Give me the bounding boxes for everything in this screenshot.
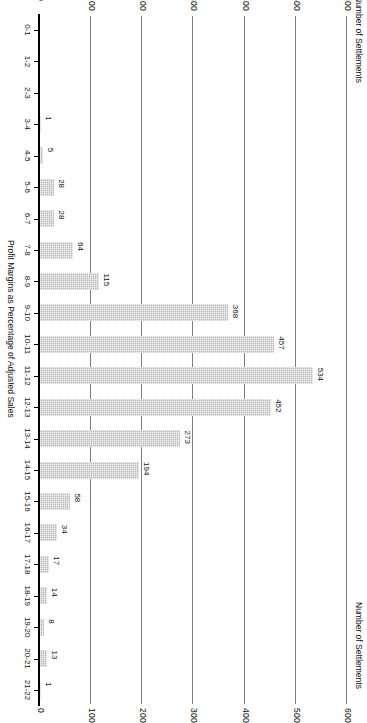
ytick-label-left-200: 200 <box>138 0 148 11</box>
ytick-label-right-100: 100 <box>87 708 97 723</box>
ytick-label-right-300: 300 <box>190 708 200 723</box>
ytick-label-left-300: 300 <box>190 0 200 11</box>
bar-14-15 <box>40 462 139 479</box>
bar-16-17 <box>40 524 57 541</box>
category-label-6-7: 6-7 <box>23 206 32 232</box>
bar-11-12 <box>40 367 313 384</box>
xtick-4-5 <box>34 156 38 157</box>
bar-5-6 <box>40 179 54 196</box>
category-label-17-18: 17-18 <box>23 551 32 577</box>
gridline-500 <box>295 16 296 704</box>
bar-value-4-5: 5 <box>46 148 55 152</box>
ytick-label-right-200: 200 <box>138 708 148 723</box>
bar-6-7 <box>40 210 54 227</box>
xtick-7-8 <box>34 250 38 251</box>
xtick-0-1 <box>34 30 38 31</box>
category-label-1-2: 1-2 <box>23 48 32 74</box>
category-label-16-17: 16-17 <box>23 520 32 546</box>
bar-value-7-8: 64 <box>76 242 85 251</box>
category-label-8-9: 8-9 <box>23 268 32 294</box>
category-label-12-13: 12-13 <box>23 394 32 420</box>
xtick-6-7 <box>34 219 38 220</box>
xtick-10-11 <box>34 344 38 345</box>
bar-4-5 <box>40 147 43 164</box>
xtick-13-14 <box>34 439 38 440</box>
bar-value-9-10: 368 <box>231 305 240 318</box>
category-label-19-20: 19-20 <box>23 614 32 640</box>
bar-value-14-15: 194 <box>142 462 151 475</box>
bar-18-19 <box>40 587 47 604</box>
category-label-2-3: 2-3 <box>23 80 32 106</box>
ytick-label-right-600: 600 <box>343 708 353 723</box>
bar-3-4 <box>40 116 41 133</box>
bar-value-21-22: 1 <box>44 682 53 686</box>
xtick-18-19 <box>34 596 38 597</box>
bar-value-11-12: 534 <box>316 368 325 381</box>
category-label-14-15: 14-15 <box>23 457 32 483</box>
gridline-200 <box>141 16 142 704</box>
category-label-15-16: 15-16 <box>23 488 32 514</box>
bar-value-8-9: 115 <box>102 273 111 286</box>
category-label-7-8: 7-8 <box>23 237 32 263</box>
bar-value-13-14: 273 <box>183 431 192 444</box>
category-label-13-14: 13-14 <box>23 426 32 452</box>
gridline-600 <box>346 16 347 704</box>
bar-7-8 <box>40 242 73 259</box>
xtick-11-12 <box>34 376 38 377</box>
bar-value-20-21: 13 <box>50 651 59 660</box>
ytick-label-left-100: 100 <box>87 0 97 11</box>
gridline-400 <box>244 16 245 704</box>
xtick-17-18 <box>34 564 38 565</box>
bar-9-10 <box>40 304 228 321</box>
y-axis-title-top: Number of Settlements <box>354 602 364 689</box>
bar-value-16-17: 34 <box>60 525 69 534</box>
xtick-14-15 <box>34 470 38 471</box>
ytick-label-left-400: 400 <box>241 0 251 11</box>
bar-13-14 <box>40 430 180 447</box>
bar-21-22 <box>40 682 41 699</box>
bar-value-18-19: 14 <box>50 588 59 597</box>
gridline-300 <box>193 16 194 704</box>
xtick-2-3 <box>34 93 38 94</box>
bar-value-6-7: 28 <box>57 211 66 220</box>
gridline-100 <box>90 16 91 704</box>
category-label-18-19: 18-19 <box>23 583 32 609</box>
category-label-20-21: 20-21 <box>23 646 32 672</box>
bar-8-9 <box>40 273 99 290</box>
ytick-label-right-0: 0 <box>36 708 46 713</box>
category-label-5-6: 5-6 <box>23 174 32 200</box>
xtick-12-13 <box>34 407 38 408</box>
bar-value-3-4: 1 <box>44 116 53 120</box>
xtick-19-20 <box>34 627 38 628</box>
xtick-3-4 <box>34 124 38 125</box>
bar-20-21 <box>40 650 47 667</box>
ytick-label-left-600: 600 <box>343 0 353 11</box>
bar-value-10-11: 457 <box>277 336 286 349</box>
bar-15-16 <box>40 493 70 510</box>
xtick-8-9 <box>34 281 38 282</box>
ytick-label-right-500: 500 <box>292 708 302 723</box>
category-label-4-5: 4-5 <box>23 143 32 169</box>
bar-value-15-16: 58 <box>73 493 82 502</box>
category-label-0-1: 0-1 <box>23 17 32 43</box>
bar-value-5-6: 28 <box>57 179 66 188</box>
category-label-3-4: 3-4 <box>23 111 32 137</box>
bar-19-20 <box>40 619 44 636</box>
bar-10-11 <box>40 336 274 353</box>
xtick-5-6 <box>34 187 38 188</box>
bar-17-18 <box>40 556 49 573</box>
bar-value-17-18: 17 <box>52 556 61 565</box>
bar-value-19-20: 8 <box>47 619 56 623</box>
xtick-16-17 <box>34 533 38 534</box>
category-label-9-10: 9-10 <box>23 300 32 326</box>
xtick-15-16 <box>34 501 38 502</box>
category-label-21-22: 21-22 <box>23 677 32 703</box>
x-axis-title: Profit Margins as Percentage of Adjusted… <box>6 240 16 418</box>
xtick-21-22 <box>34 690 38 691</box>
bar-value-12-13: 452 <box>274 399 283 412</box>
category-label-11-12: 11-12 <box>23 363 32 389</box>
y-axis-title-bottom: Number of Settlements <box>354 0 364 83</box>
